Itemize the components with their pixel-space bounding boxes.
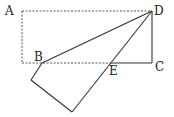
segment-b-p [31, 63, 42, 80]
label-c: C [155, 60, 164, 74]
segment-d-b [42, 11, 152, 63]
label-b: B [34, 50, 43, 64]
segment-p-q [31, 80, 72, 112]
solid-figure [31, 11, 152, 112]
label-e: E [109, 64, 118, 78]
fold-diagram: A D B C E [0, 0, 174, 117]
segment-q-d [72, 11, 152, 112]
label-a: A [4, 4, 14, 18]
label-d: D [154, 4, 164, 18]
